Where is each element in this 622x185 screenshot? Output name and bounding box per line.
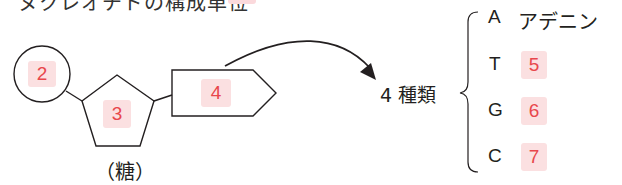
arrow-head-icon <box>360 63 376 80</box>
answer-box-5: 5 <box>521 51 547 79</box>
sugar-caption: （糖） <box>95 156 155 185</box>
answer-box-3: 3 <box>103 100 131 128</box>
arrow-curve <box>225 41 370 68</box>
answer-box-4: 4 <box>201 79 231 107</box>
brace-icon <box>460 12 478 172</box>
answer-box-2: 2 <box>28 61 56 87</box>
answer-box-7: 7 <box>521 143 547 171</box>
base-name-adenine: アデニン <box>518 6 598 35</box>
base-letter-g: G <box>488 99 503 121</box>
base-letter-c: C <box>488 145 502 167</box>
base-count-label: 4 種類 <box>380 80 436 107</box>
answer-box-6: 6 <box>521 97 547 125</box>
base-letter-t: T <box>489 53 501 75</box>
base-letter-a: A <box>488 6 501 28</box>
